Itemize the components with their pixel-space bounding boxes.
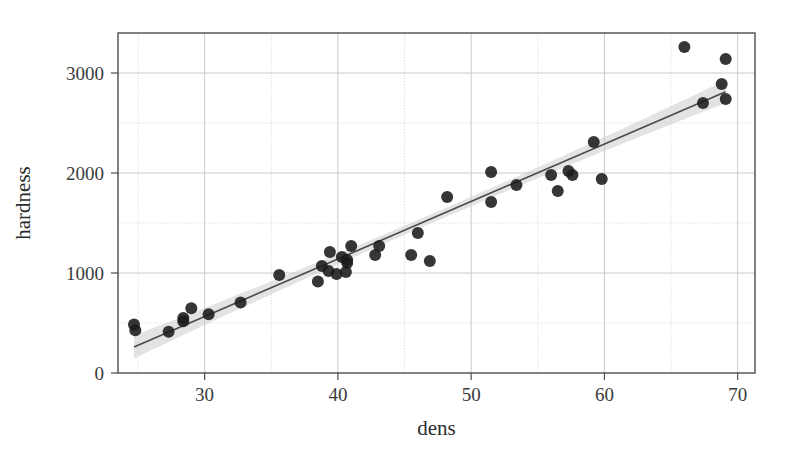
y-axis-title: hardness <box>11 166 35 239</box>
x-tick-label: 30 <box>195 384 214 405</box>
scatter-point <box>485 196 497 208</box>
scatter-point <box>405 249 417 261</box>
axis-tick-labels: 30405060700100020003000 <box>66 63 747 405</box>
scatter-point <box>345 240 357 252</box>
x-tick-label: 50 <box>462 384 481 405</box>
scatter-point <box>441 191 453 203</box>
frame-rect <box>118 33 755 373</box>
minor-gridlines <box>118 33 755 373</box>
plot-canvas: 30405060700100020003000 dens hardness <box>0 0 786 450</box>
scatter-point <box>510 179 522 191</box>
x-axis-title: dens <box>417 416 456 440</box>
y-tick-label: 0 <box>95 363 105 384</box>
scatter-plot-figure: 30405060700100020003000 dens hardness <box>0 0 786 450</box>
scatter-point <box>716 78 728 90</box>
scatter-point <box>720 53 732 65</box>
x-tick-label: 70 <box>728 384 747 405</box>
x-tick-label: 60 <box>595 384 614 405</box>
scatter-point <box>566 169 578 181</box>
x-tick-label: 40 <box>328 384 347 405</box>
scatter-point <box>424 255 436 267</box>
scatter-point <box>588 136 600 148</box>
scatter-point <box>545 169 557 181</box>
y-tick-label: 3000 <box>66 63 104 84</box>
scatter-point <box>324 246 336 258</box>
plot-frame <box>118 33 755 373</box>
scatter-point <box>341 254 353 266</box>
scatter-point <box>485 166 497 178</box>
scatter-point <box>163 326 175 338</box>
regression-line <box>134 92 726 347</box>
scatter-point <box>412 227 424 239</box>
major-gridlines <box>118 33 755 373</box>
scatter-point <box>720 93 732 105</box>
scatter-point <box>235 297 247 309</box>
scatter-point <box>177 312 189 324</box>
scatter-point <box>312 276 324 288</box>
y-tick-label: 2000 <box>66 163 104 184</box>
scatter-point <box>129 324 141 336</box>
scatter-point <box>203 308 215 320</box>
scatter-point <box>697 97 709 109</box>
scatter-point <box>185 302 197 314</box>
scatter-point <box>273 269 285 281</box>
scatter-point <box>552 185 564 197</box>
scatter-point <box>373 240 385 252</box>
fit-line-segment <box>134 92 726 347</box>
scatter-point <box>596 173 608 185</box>
scatter-point <box>678 41 690 53</box>
data-points <box>128 41 732 338</box>
y-tick-label: 1000 <box>66 263 104 284</box>
